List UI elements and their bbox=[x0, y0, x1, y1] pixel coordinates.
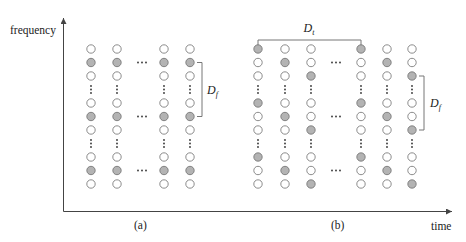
empty-slot-circle bbox=[254, 180, 262, 188]
vertical-ellipsis-dot bbox=[116, 146, 118, 148]
grid-row bbox=[254, 72, 416, 80]
vertical-ellipsis-dot bbox=[163, 85, 165, 87]
empty-slot-circle bbox=[408, 45, 416, 53]
empty-slot-circle bbox=[113, 99, 121, 107]
empty-slot-circle bbox=[87, 72, 95, 80]
empty-slot-circle bbox=[113, 126, 121, 134]
filled-slot-circle bbox=[383, 58, 391, 66]
vertical-ellipsis-dot bbox=[90, 139, 92, 141]
panel-a: Df bbox=[87, 45, 220, 188]
ellipsis-dot bbox=[335, 62, 337, 64]
vertical-ellipsis-dot bbox=[411, 143, 413, 145]
vertical-ellipsis-dot bbox=[360, 92, 362, 94]
empty-slot-circle bbox=[357, 166, 365, 174]
ellipsis-dot bbox=[137, 62, 139, 64]
filled-slot-circle bbox=[383, 112, 391, 120]
vertical-ellipsis-dot bbox=[411, 85, 413, 87]
vertical-ellipsis-dot bbox=[90, 146, 92, 148]
grid-row bbox=[87, 45, 194, 53]
filled-slot-circle bbox=[160, 112, 168, 120]
ellipsis-dot bbox=[339, 170, 341, 172]
empty-slot-circle bbox=[357, 180, 365, 188]
empty-slot-circle bbox=[383, 99, 391, 107]
empty-slot-circle bbox=[408, 99, 416, 107]
empty-slot-circle bbox=[357, 72, 365, 80]
filled-slot-circle bbox=[186, 112, 194, 120]
filled-slot-circle bbox=[160, 166, 168, 174]
vertical-ellipsis-dot bbox=[386, 89, 388, 91]
filled-slot-circle bbox=[281, 166, 289, 174]
empty-slot-circle bbox=[254, 112, 262, 120]
filled-slot-circle bbox=[254, 99, 262, 107]
empty-slot-circle bbox=[186, 153, 194, 161]
vertical-ellipsis-dot bbox=[411, 89, 413, 91]
empty-slot-circle bbox=[307, 153, 315, 161]
filled-slot-circle bbox=[254, 45, 262, 53]
empty-slot-circle bbox=[254, 58, 262, 66]
frequency-time-diagram: frequency time Df DfDt (a) (b) bbox=[0, 0, 466, 242]
vertical-ellipsis-dot bbox=[189, 139, 191, 141]
empty-slot-circle bbox=[408, 166, 416, 174]
empty-slot-circle bbox=[186, 180, 194, 188]
empty-slot-circle bbox=[307, 45, 315, 53]
grid-row bbox=[257, 85, 413, 94]
filled-slot-circle bbox=[307, 180, 315, 188]
df-bracket: Df bbox=[419, 76, 443, 130]
vertical-ellipsis-dot bbox=[386, 143, 388, 145]
empty-slot-circle bbox=[160, 153, 168, 161]
vertical-ellipsis-dot bbox=[386, 85, 388, 87]
empty-slot-circle bbox=[160, 99, 168, 107]
vertical-ellipsis-dot bbox=[163, 146, 165, 148]
vertical-ellipsis-dot bbox=[310, 146, 312, 148]
empty-slot-circle bbox=[357, 58, 365, 66]
ellipsis-dot bbox=[137, 170, 139, 172]
empty-slot-circle bbox=[87, 99, 95, 107]
vertical-ellipsis-dot bbox=[90, 143, 92, 145]
vertical-ellipsis-dot bbox=[257, 146, 259, 148]
empty-slot-circle bbox=[307, 99, 315, 107]
empty-slot-circle bbox=[160, 72, 168, 80]
vertical-ellipsis-dot bbox=[360, 139, 362, 141]
ellipsis-dot bbox=[335, 116, 337, 118]
grid-row bbox=[87, 166, 194, 174]
grid-row bbox=[87, 112, 194, 120]
grid-row bbox=[254, 112, 416, 120]
vertical-ellipsis-dot bbox=[257, 89, 259, 91]
vertical-ellipsis-dot bbox=[386, 139, 388, 141]
ellipsis-dot bbox=[331, 170, 333, 172]
empty-slot-circle bbox=[113, 180, 121, 188]
vertical-ellipsis-dot bbox=[189, 143, 191, 145]
panel-b: DfDt bbox=[254, 21, 443, 188]
vertical-ellipsis-dot bbox=[310, 143, 312, 145]
vertical-ellipsis-dot bbox=[116, 92, 118, 94]
vertical-ellipsis-dot bbox=[116, 85, 118, 87]
empty-slot-circle bbox=[113, 72, 121, 80]
empty-slot-circle bbox=[357, 126, 365, 134]
filled-slot-circle bbox=[113, 58, 121, 66]
empty-slot-circle bbox=[383, 180, 391, 188]
empty-slot-circle bbox=[186, 45, 194, 53]
empty-slot-circle bbox=[383, 72, 391, 80]
empty-slot-circle bbox=[281, 126, 289, 134]
vertical-ellipsis-dot bbox=[257, 139, 259, 141]
vertical-ellipsis-dot bbox=[411, 146, 413, 148]
empty-slot-circle bbox=[408, 58, 416, 66]
vertical-ellipsis-dot bbox=[257, 85, 259, 87]
vertical-ellipsis-dot bbox=[310, 139, 312, 141]
vertical-ellipsis-dot bbox=[310, 92, 312, 94]
vertical-ellipsis-dot bbox=[257, 92, 259, 94]
empty-slot-circle bbox=[408, 153, 416, 161]
filled-slot-circle bbox=[383, 166, 391, 174]
vertical-ellipsis-dot bbox=[163, 143, 165, 145]
empty-slot-circle bbox=[87, 180, 95, 188]
vertical-ellipsis-dot bbox=[189, 85, 191, 87]
vertical-ellipsis-dot bbox=[257, 143, 259, 145]
vertical-ellipsis-dot bbox=[411, 92, 413, 94]
vertical-ellipsis-dot bbox=[386, 92, 388, 94]
vertical-ellipsis-dot bbox=[360, 85, 362, 87]
ellipsis-dot bbox=[331, 116, 333, 118]
filled-slot-circle bbox=[186, 58, 194, 66]
ellipsis-dot bbox=[339, 62, 341, 64]
empty-slot-circle bbox=[160, 180, 168, 188]
vertical-ellipsis-dot bbox=[310, 85, 312, 87]
